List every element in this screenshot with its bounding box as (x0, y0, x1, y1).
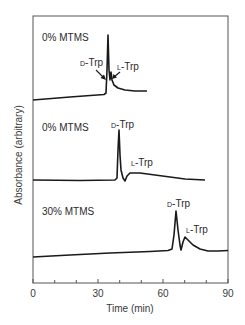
chromatogram-chart: 0 30 60 90 Time (min) Absorbance (arbitr… (0, 0, 245, 325)
d-trp-label-middle: D-Trp (111, 119, 134, 130)
d-trp-label-bottom: D-Trp (167, 198, 190, 209)
plot-frame (33, 16, 228, 283)
d-trp-label-top: D-Trp (80, 57, 103, 68)
y-axis-title: Absorbance (arbitrary) (13, 105, 24, 204)
x-tick-label-0: 0 (30, 288, 36, 299)
condition-label-middle: 0% MTMS (42, 122, 89, 133)
x-tick-label-30: 30 (92, 288, 104, 299)
x-tick-label-60: 60 (157, 288, 169, 299)
condition-label-top: 0% MTMS (42, 32, 89, 43)
x-axis-title: Time (min) (106, 303, 153, 314)
trace-middle-0pct-mtms (33, 130, 205, 181)
arrow-icon-l-trp-top (112, 72, 120, 79)
x-tick-label-90: 90 (222, 288, 234, 299)
l-trp-label-middle: L-Trp (131, 157, 153, 168)
condition-label-bottom: 30% MTMS (42, 206, 95, 217)
x-axis-ticks (33, 279, 228, 283)
l-trp-label-top: L-Trp (117, 61, 139, 72)
arrow-icon-d-trp-top (96, 70, 106, 80)
l-trp-label-bottom: L-Trp (186, 224, 208, 235)
